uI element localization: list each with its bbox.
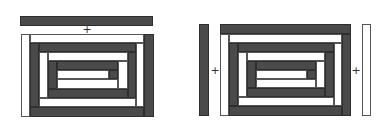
left-ring3-left [39, 52, 48, 98]
left-ring4-left [48, 61, 57, 89]
right-ring2-top [229, 34, 342, 43]
left-ring2-right [136, 43, 144, 107]
right-ring2-right [334, 43, 342, 106]
left-ring1-right [144, 34, 154, 117]
left-ring4-right [118, 61, 128, 89]
right-detached-right-bar [362, 24, 371, 116]
right-ring4-left [247, 61, 256, 88]
left-ring3-bottom [48, 89, 128, 98]
right-ring3-bottom [247, 88, 325, 97]
right-ring3-top [238, 43, 334, 52]
left-ring2-bottom [39, 98, 136, 107]
right-ring4-top [247, 52, 325, 61]
right-plus-sign-icon: + [210, 65, 220, 76]
right-ring1-top [220, 24, 351, 34]
left-core-bar [57, 70, 109, 79]
left-ring4-bottom [57, 79, 118, 89]
right-ring1-left [220, 34, 229, 116]
right-core-top [256, 61, 316, 70]
left-ring4-top [57, 61, 118, 70]
left-ring1-left [21, 34, 30, 117]
left-plus-sign-icon: + [82, 24, 92, 35]
right-ring1-bottom [229, 106, 342, 116]
right-ring4-right [316, 61, 325, 88]
right-ring2-left [229, 43, 238, 106]
left-ring1-bottom [30, 107, 144, 117]
diagram-canvas: + ++ [0, 0, 390, 124]
right-ring4-bottom [256, 79, 316, 88]
right-ring3-left [238, 52, 247, 97]
right-core-bar [256, 70, 307, 79]
right-ring3-right [325, 52, 334, 97]
right-plus-sign-icon: + [351, 65, 361, 76]
right-core-square [307, 70, 316, 79]
left-ring2-left [30, 43, 39, 107]
left-ring3-right [128, 52, 136, 98]
left-core-square [109, 70, 118, 79]
right-ring2-bottom [238, 97, 334, 106]
right-detached-left-bar [199, 24, 209, 116]
right-ring1-right [342, 34, 351, 116]
left-ring2-top [39, 43, 136, 52]
left-ring3-top [48, 52, 128, 61]
